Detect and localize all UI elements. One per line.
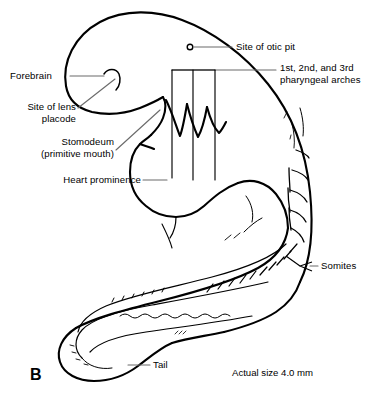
label-pharyngeal-arches-line1: 1st, 2nd, and 3rd <box>280 62 377 74</box>
label-somites: Somites <box>321 260 377 272</box>
embryo-inner-contours <box>70 44 309 368</box>
label-otic-pit: Site of otic pit <box>236 41 346 53</box>
otic-pit-circle <box>187 44 193 50</box>
lens-placode-mark <box>104 70 120 91</box>
leader-lens-placode <box>78 79 115 108</box>
label-lens-placode-line1: Site of lens <box>0 101 76 113</box>
label-stomodeum-line2: (primitive mouth) <box>14 148 114 160</box>
label-pharyngeal-arches-line2: pharyngeal arches <box>280 74 377 86</box>
label-tail: Tail <box>153 359 193 371</box>
embryo-line-drawing <box>0 0 377 401</box>
embryo-outline <box>59 12 312 381</box>
pharyngeal-arch-bracket <box>172 70 215 180</box>
label-lens-placode-line2: placode <box>0 113 76 125</box>
figure-caption: Actual size 4.0 mm <box>232 367 313 378</box>
panel-letter: B <box>30 366 42 384</box>
leader-stomodeum <box>116 110 160 150</box>
label-stomodeum-line1: Stomodeum <box>14 136 114 148</box>
tail-crenulations <box>112 288 164 302</box>
label-forebrain: Forebrain <box>10 70 72 82</box>
embryo-figure-panel-b: Forebrain Site of lens placode Stomodeum… <box>0 0 377 401</box>
somite-hatch-marks <box>207 244 297 292</box>
label-heart-prominence: Heart prominence <box>43 174 141 186</box>
leader-lines <box>70 47 318 365</box>
